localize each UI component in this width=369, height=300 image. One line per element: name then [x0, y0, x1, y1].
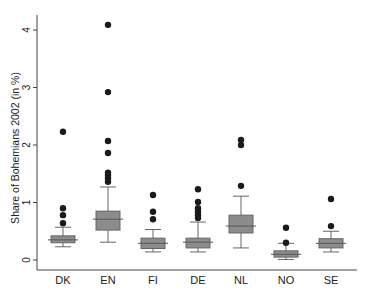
outlier-point [150, 216, 156, 222]
outlier-point [283, 225, 289, 231]
box-de [183, 186, 213, 252]
outlier-point [328, 196, 334, 202]
outlier-point [195, 205, 201, 211]
outlier-point [60, 129, 66, 135]
outlier-point [60, 205, 66, 211]
x-axis: DKENFIDENLNOSE [37, 270, 357, 286]
outlier-point [105, 89, 111, 95]
outlier-point [238, 137, 244, 143]
iqr-box [96, 211, 120, 230]
y-tick-label: 2 [21, 142, 32, 148]
box-fi [138, 192, 168, 252]
box-dk [48, 129, 78, 247]
outlier-point [60, 212, 66, 218]
x-category-label: DK [55, 274, 71, 286]
outlier-point [195, 186, 201, 192]
x-category-label: NL [234, 274, 248, 286]
outlier-point [105, 169, 111, 175]
y-tick-label: 0 [21, 257, 32, 263]
x-category-label: EN [100, 274, 115, 286]
y-axis: 01234 [21, 15, 37, 270]
y-tick-label: 1 [21, 199, 32, 205]
box-no [271, 225, 301, 260]
outlier-point [150, 192, 156, 198]
box-se [316, 196, 346, 252]
x-category-label: NO [278, 274, 295, 286]
box-series [48, 22, 346, 260]
outlier-point [283, 240, 289, 246]
y-axis-title: Share of Bohemians 2002 (in %) [9, 72, 21, 224]
outlier-point [105, 150, 111, 156]
y-tick-label: 4 [21, 27, 32, 33]
box-en [93, 22, 123, 243]
x-category-label: DE [190, 274, 205, 286]
outlier-point [105, 22, 111, 28]
x-category-label: SE [324, 274, 339, 286]
outlier-point [238, 183, 244, 189]
outlier-point [105, 138, 111, 144]
box-nl [226, 137, 256, 248]
y-tick-label: 3 [21, 84, 32, 90]
iqr-box [229, 215, 253, 233]
iqr-box [51, 236, 75, 243]
outlier-point [328, 223, 334, 229]
boxplot-chart: 01234 DKENFIDENLNOSE Share of Bohemians … [0, 0, 369, 300]
outlier-point [150, 209, 156, 215]
iqr-box [186, 238, 210, 248]
outlier-point [60, 220, 66, 226]
x-category-label: FI [148, 274, 158, 286]
outlier-point [195, 199, 201, 205]
